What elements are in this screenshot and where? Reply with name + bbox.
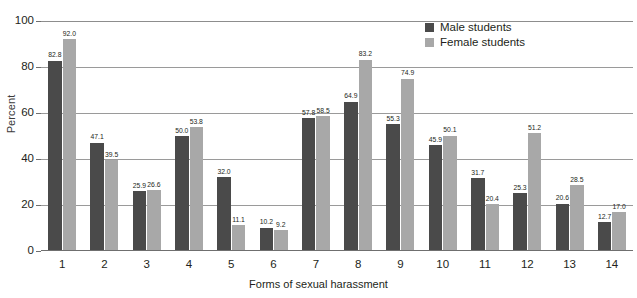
y-tick-label-20: 20 [4,199,34,211]
bar-group: 82.892.0 [48,21,76,251]
bar-group: 45.950.1 [429,21,457,251]
bar-group: 31.720.4 [471,21,499,251]
bar-female [443,136,457,251]
bar-value-label: 9.2 [270,222,292,229]
x-tick-label-2: 2 [89,258,119,270]
bar-female [316,116,330,251]
bar-value-label: 26.6 [143,182,165,189]
y-tick-mark-100 [36,21,41,22]
bar-male [344,102,358,251]
x-tick-label-10: 10 [428,258,458,270]
bar-male [217,177,231,251]
x-tick-label-9: 9 [385,258,415,270]
bar-group: 20.628.5 [556,21,584,251]
bar-value-label: 39.5 [101,152,123,159]
bar-group: 25.351.2 [513,21,541,251]
x-tick-label-3: 3 [132,258,162,270]
bar-value-label: 11.1 [228,217,250,224]
x-tick-label-11: 11 [470,258,500,270]
bar-value-label: 50.1 [439,127,461,134]
bar-female [486,204,500,251]
y-tick-label-0: 0 [4,245,34,257]
bar-female [401,79,415,251]
bar-female [570,185,584,251]
bar-value-label: 28.5 [566,177,588,184]
gridline-60 [41,113,633,114]
bar-value-label: 17.0 [608,204,630,211]
gridline-80 [41,67,633,68]
bar-male [556,204,570,251]
bar-value-label: 32.0 [213,169,235,176]
x-tick-label-12: 12 [512,258,542,270]
bar-male [598,222,612,251]
y-tick-mark-0 [36,251,41,252]
bar-value-label: 58.5 [312,108,334,115]
bar-value-label: 51.2 [524,125,546,132]
bar-male [513,193,527,251]
bar-value-label: 83.2 [355,51,377,58]
bar-female [190,127,204,251]
x-tick-label-6: 6 [259,258,289,270]
bar-male [471,178,485,251]
bar-female [274,230,288,251]
bar-value-label: 92.0 [59,31,81,38]
bar-group: 32.011.1 [217,21,245,251]
legend-label-female: Female students [440,37,525,49]
legend-item-male: Male students [425,22,525,34]
bar-group: 55.374.9 [386,21,414,251]
x-tick-label-13: 13 [555,258,585,270]
bar-value-label: 20.4 [482,196,504,203]
bar-value-label: 31.7 [467,170,489,177]
bar-female [147,190,161,251]
chart-legend: Male students Female students [425,22,525,51]
y-tick-mark-80 [36,67,41,68]
bar-male [386,124,400,251]
bar-group: 10.29.2 [260,21,288,251]
bar-male [48,61,62,251]
bar-group: 25.926.6 [133,21,161,251]
x-tick-label-14: 14 [597,258,627,270]
x-axis-line [41,250,633,252]
bar-male [133,191,147,251]
gridline-40 [41,159,633,160]
y-axis-ticks: 100806040200 [0,0,34,298]
bar-female [232,225,246,251]
plot-area: 82.892.047.139.525.926.650.053.832.011.1… [41,21,633,251]
legend-swatch-male-icon [425,23,434,32]
y-tick-mark-60 [36,113,41,114]
bar-male [302,118,316,251]
y-tick-label-100: 100 [4,15,34,27]
grouped-bar-chart: Percent 100806040200 82.892.047.139.525.… [0,0,637,298]
x-tick-label-5: 5 [216,258,246,270]
legend-item-female: Female students [425,37,525,49]
bar-male [260,228,274,251]
bar-group: 64.983.2 [344,21,372,251]
bar-value-label: 53.8 [186,119,208,126]
y-tick-mark-20 [36,205,41,206]
bar-group: 57.858.5 [302,21,330,251]
bar-group: 12.717.0 [598,21,626,251]
bar-female [528,133,542,251]
bar-female [63,39,77,251]
bar-female [105,160,119,251]
legend-label-male: Male students [440,22,512,34]
x-tick-label-8: 8 [343,258,373,270]
bar-group: 47.139.5 [90,21,118,251]
x-tick-label-7: 7 [301,258,331,270]
y-tick-label-80: 80 [4,61,34,73]
x-tick-label-4: 4 [174,258,204,270]
x-axis-label: Forms of sexual harassment [0,278,637,290]
bar-female [359,60,373,251]
bar-male [90,143,104,251]
x-tick-label-1: 1 [47,258,77,270]
bar-female [612,212,626,251]
bar-male [429,145,443,251]
bar-male [175,136,189,251]
y-tick-label-60: 60 [4,107,34,119]
y-tick-mark-40 [36,159,41,160]
legend-swatch-female-icon [425,38,434,47]
bar-group: 50.053.8 [175,21,203,251]
bar-value-label: 47.1 [86,134,108,141]
bar-value-label: 74.9 [397,70,419,77]
gridline-100 [41,21,633,22]
